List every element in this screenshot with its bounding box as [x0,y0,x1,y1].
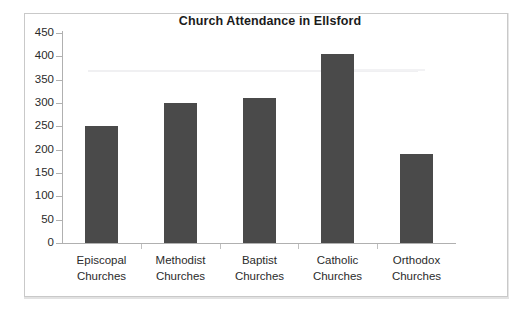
y-axis-tick-label: 0 [18,237,54,248]
bar [85,126,118,243]
x-axis-category-label-line: Orthodox [377,252,456,268]
x-axis-line [62,243,456,244]
x-axis-category-label-line: Churches [298,268,377,284]
x-axis-category-label-line: Churches [62,268,141,284]
bar [321,54,354,243]
y-axis-tick-label-text: 100 [20,190,54,201]
y-axis-tick-mark [56,243,62,244]
y-axis-tick-label: 350 [18,74,54,85]
x-axis-category-label-line: Methodist [141,252,220,268]
x-axis-category-label-line: Churches [377,268,456,284]
x-axis-category-label: OrthodoxChurches [377,252,456,284]
x-axis-category-label-line: Baptist [220,252,299,268]
y-axis-tick-label-text: 300 [20,97,54,108]
chart-title: Church Attendance in Ellsford [60,14,480,28]
y-axis-tick-label: 200 [18,144,54,155]
x-axis-category-label-line: Churches [141,268,220,284]
y-axis-tick-label: 100 [18,190,54,201]
y-axis-tick-mark [56,33,62,34]
y-axis-tick-mark [56,126,62,127]
x-axis-category-label: MethodistChurches [141,252,220,284]
x-axis-category-label-line: Episcopal [62,252,141,268]
y-axis-tick-label-text: 50 [20,214,54,225]
x-axis-tick-mark [377,244,378,249]
x-axis-category-label-line: Churches [220,268,299,284]
bar [243,98,276,243]
y-axis-tick-mark [56,150,62,151]
y-axis-tick-label-text: 250 [20,120,54,131]
y-axis-tick-mark [56,220,62,221]
frame-bottom-shadow [24,297,509,299]
y-axis-tick-mark [56,56,62,57]
y-axis-tick-label-text: 0 [20,237,54,248]
y-axis-line [62,31,63,244]
y-axis-tick-label-text: 350 [20,74,54,85]
x-axis-category-label: CatholicChurches [298,252,377,284]
x-axis-tick-mark [220,244,221,249]
y-axis-tick-label: 450 [18,27,54,38]
y-axis-tick-mark [56,173,62,174]
y-axis-tick-label: 250 [18,120,54,131]
y-axis-tick-label: 400 [18,50,54,61]
bar [164,103,197,243]
y-axis-tick-label-text: 450 [20,27,54,38]
y-axis-tick-label-text: 150 [20,167,54,178]
y-axis-tick-label-text: 400 [20,50,54,61]
y-axis-tick-label: 300 [18,97,54,108]
x-axis-tick-mark [298,244,299,249]
x-axis-tick-mark [141,244,142,249]
x-axis-category-label: EpiscopalChurches [62,252,141,284]
y-axis-tick-mark [56,80,62,81]
y-axis-tick-mark [56,196,62,197]
bar [400,154,433,243]
y-axis-tick-label-text: 200 [20,144,54,155]
y-axis-tick-label: 150 [18,167,54,178]
chart-screenshot: Church Attendance in Ellsford 4504003503… [0,0,532,312]
y-axis-tick-mark [56,103,62,104]
x-axis-category-label: BaptistChurches [220,252,299,284]
x-axis-category-label-line: Catholic [298,252,377,268]
y-axis-tick-label: 50 [18,214,54,225]
